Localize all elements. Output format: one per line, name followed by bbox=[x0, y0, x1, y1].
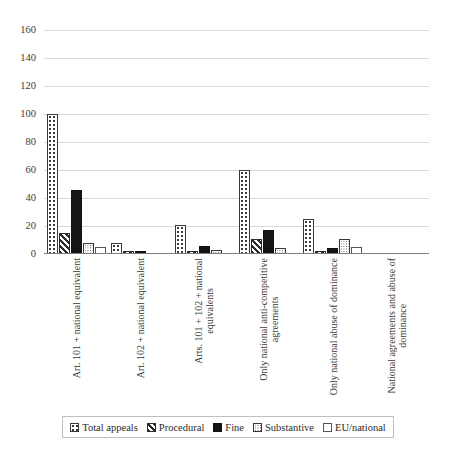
bar bbox=[47, 114, 58, 254]
y-axis-tick-label: 160 bbox=[20, 25, 36, 35]
y-axis-tick-label: 80 bbox=[26, 137, 37, 147]
y-axis-tick-label: 140 bbox=[20, 53, 36, 63]
y-axis-tick-label: 120 bbox=[20, 81, 36, 91]
y-axis-tick-label: 60 bbox=[26, 165, 37, 175]
figure-caption bbox=[18, 450, 438, 462]
x-axis-category-label: Art. 101 + national equivalent bbox=[71, 258, 82, 378]
bar-group bbox=[301, 30, 365, 254]
legend-swatch-icon bbox=[213, 423, 222, 432]
bar-group bbox=[237, 30, 301, 254]
x-axis-category-label: Only national abuse of dominance bbox=[327, 258, 338, 395]
bar-group bbox=[172, 30, 236, 254]
legend-swatch-icon bbox=[253, 423, 262, 432]
y-axis-tick-label: 0 bbox=[31, 249, 36, 259]
x-axis-category-labels: Art. 101 + national equivalentArt. 102 +… bbox=[44, 258, 429, 406]
x-axis-category: National agreements and abuse ofdominanc… bbox=[365, 258, 429, 406]
x-axis-category-label: Arts. 101 + 102 + nationalequivalents bbox=[193, 258, 215, 364]
legend-swatch-icon bbox=[323, 423, 332, 432]
plot-area bbox=[44, 30, 429, 254]
bar-group bbox=[365, 30, 429, 254]
bar bbox=[263, 230, 274, 254]
legend-item[interactable]: Total appeals bbox=[70, 422, 138, 433]
bar-group bbox=[44, 30, 108, 254]
x-axis-category: Only national abuse of dominance bbox=[301, 258, 365, 406]
bar bbox=[339, 239, 350, 254]
x-axis-line bbox=[44, 253, 429, 254]
chart-legend: Total appealsProceduralFineSubstantiveEU… bbox=[62, 416, 394, 438]
bar bbox=[251, 239, 262, 254]
x-axis-category: Art. 102 + national equivalent bbox=[108, 258, 172, 406]
legend-label: Procedural bbox=[159, 422, 204, 433]
legend-item[interactable]: EU/national bbox=[323, 422, 386, 433]
legend-item[interactable]: Procedural bbox=[147, 422, 204, 433]
bar-groups bbox=[44, 30, 429, 254]
bar bbox=[303, 219, 314, 254]
y-axis: 020406080100120140160 bbox=[0, 30, 40, 254]
x-axis-category-label: Only national anti-competitiveagreements bbox=[258, 258, 280, 381]
x-axis-category-label: Art. 102 + national equivalent bbox=[135, 258, 146, 378]
bar-group bbox=[108, 30, 172, 254]
legend-swatch-icon bbox=[147, 423, 156, 432]
legend-label: EU/national bbox=[335, 422, 386, 433]
x-axis-category: Arts. 101 + 102 + nationalequivalents bbox=[172, 258, 236, 406]
bar bbox=[71, 190, 82, 254]
legend-item[interactable]: Substantive bbox=[253, 422, 314, 433]
legend-swatch-icon bbox=[70, 423, 79, 432]
legend-label: Total appeals bbox=[82, 422, 138, 433]
bar-chart: 020406080100120140160 Art. 101 + nationa… bbox=[0, 0, 451, 462]
bar bbox=[59, 233, 70, 254]
y-axis-tick-label: 20 bbox=[26, 221, 37, 231]
legend-label: Substantive bbox=[265, 422, 314, 433]
bar bbox=[239, 170, 250, 254]
x-axis-category-label: National agreements and abuse ofdominanc… bbox=[386, 258, 408, 394]
y-axis-tick-label: 40 bbox=[26, 193, 37, 203]
y-axis-tick-label: 100 bbox=[20, 109, 36, 119]
x-axis-category: Art. 101 + national equivalent bbox=[44, 258, 108, 406]
legend-label: Fine bbox=[225, 422, 244, 433]
legend-item[interactable]: Fine bbox=[213, 422, 244, 433]
bar bbox=[175, 225, 186, 254]
x-axis-category: Only national anti-competitiveagreements bbox=[237, 258, 301, 406]
